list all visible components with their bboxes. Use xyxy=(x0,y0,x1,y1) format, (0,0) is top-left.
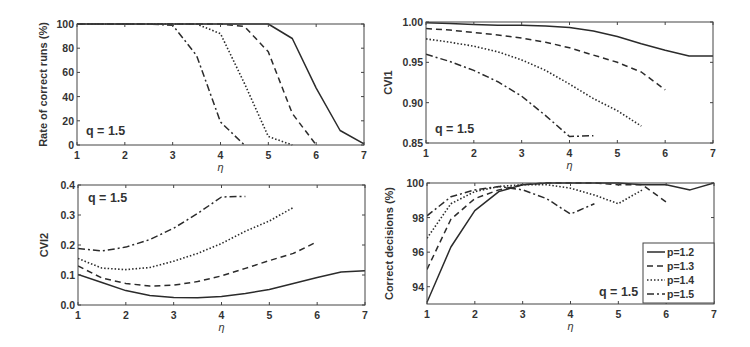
x-tick-label: 4 xyxy=(567,147,573,159)
series-line-p-1_5 xyxy=(427,187,594,216)
x-tick-label: 3 xyxy=(170,149,176,161)
series-line-p-1_3 xyxy=(427,183,666,269)
y-tick-label: 96 xyxy=(412,246,424,258)
legend: p=1.2p=1.3p=1.4p=1.5 xyxy=(643,243,714,303)
x-tick-label: 1 xyxy=(74,149,80,161)
x-tick-label: 4 xyxy=(218,149,224,161)
x-tick-label: 2 xyxy=(471,147,477,159)
q-annotation: q = 1.5 xyxy=(88,191,127,205)
series-group xyxy=(426,23,713,137)
y-tick-label: 0.0 xyxy=(60,299,75,311)
figure: 1234567020406080100ηRate of correct runs… xyxy=(0,0,750,347)
y-tick-label: 0 xyxy=(68,139,74,151)
legend-label: p=1.5 xyxy=(667,288,694,300)
y-tick-label: 0.1 xyxy=(60,269,75,281)
x-tick-label: 6 xyxy=(663,308,669,320)
y-axis-label: CVI1 xyxy=(382,70,394,94)
panel-decisions: 1234567949698100ηCorrect decisions (%)q … xyxy=(383,177,717,332)
x-tick-label: 5 xyxy=(265,149,271,161)
x-tick-label: 1 xyxy=(424,308,430,320)
y-tick-label: 0.85 xyxy=(403,137,424,149)
panel-cvi1: 12345670.850.900.951.00ηCVI1q = 1.5 xyxy=(382,16,716,171)
y-axis-label: CVI2 xyxy=(38,233,50,257)
q-annotation: q = 1.5 xyxy=(86,124,125,138)
legend-label: p=1.3 xyxy=(667,260,694,272)
x-axis-label: η xyxy=(218,321,224,333)
series-line-p-1_4 xyxy=(78,208,293,270)
y-tick-label: 1.00 xyxy=(403,16,424,28)
x-tick-label: 1 xyxy=(423,147,429,159)
y-tick-label: 100 xyxy=(406,177,424,189)
series-line-p-1_4 xyxy=(426,39,641,126)
panel-cvi2: 12345670.00.10.20.30.4ηCVI2q = 1.5 xyxy=(38,179,368,333)
y-tick-label: 0.90 xyxy=(403,97,424,109)
x-tick-label: 5 xyxy=(615,308,621,320)
y-tick-label: 20 xyxy=(62,115,74,127)
x-tick-label: 7 xyxy=(361,149,367,161)
y-tick-label: 98 xyxy=(412,212,424,224)
x-tick-label: 4 xyxy=(568,308,574,320)
y-tick-label: 0.4 xyxy=(60,179,75,191)
x-tick-label: 1 xyxy=(75,309,81,321)
y-axis-label: Rate of correct runs (%) xyxy=(37,22,49,147)
y-tick-label: 80 xyxy=(62,42,74,54)
x-tick-label: 2 xyxy=(123,309,129,321)
y-axis-label: Correct decisions (%) xyxy=(383,187,395,300)
x-axis-label: η xyxy=(566,159,572,171)
q-annotation: q = 1.5 xyxy=(599,285,638,299)
x-tick-label: 2 xyxy=(472,308,478,320)
x-tick-label: 4 xyxy=(219,309,225,321)
x-tick-label: 5 xyxy=(614,147,620,159)
legend-label: p=1.2 xyxy=(667,246,694,258)
series-line-p-1_4 xyxy=(427,185,642,239)
series-line-p-1_2 xyxy=(426,23,713,56)
x-tick-label: 6 xyxy=(313,149,319,161)
panel-rate: 1234567020406080100ηRate of correct runs… xyxy=(37,18,367,173)
y-tick-label: 0.3 xyxy=(60,209,75,221)
x-tick-label: 3 xyxy=(171,309,177,321)
x-axis-label: η xyxy=(567,320,573,332)
x-tick-label: 7 xyxy=(710,147,716,159)
x-tick-label: 7 xyxy=(362,309,368,321)
y-tick-label: 100 xyxy=(56,18,74,30)
x-tick-label: 5 xyxy=(266,309,272,321)
legend-label: p=1.4 xyxy=(667,274,694,286)
q-annotation: q = 1.5 xyxy=(435,122,474,136)
x-tick-label: 6 xyxy=(662,147,668,159)
x-tick-label: 6 xyxy=(314,309,320,321)
x-tick-label: 7 xyxy=(711,308,717,320)
series-group xyxy=(78,196,365,297)
y-tick-label: 94 xyxy=(412,281,424,293)
y-tick-label: 40 xyxy=(62,91,74,103)
y-tick-label: 0.95 xyxy=(403,56,424,68)
x-tick-label: 2 xyxy=(122,149,128,161)
series-line-p-1_2 xyxy=(78,271,365,298)
x-tick-label: 3 xyxy=(519,147,525,159)
y-tick-label: 0.2 xyxy=(60,239,75,251)
y-tick-label: 60 xyxy=(62,66,74,78)
x-tick-label: 3 xyxy=(520,308,526,320)
series-line-p-1_3 xyxy=(426,29,665,90)
x-axis-label: η xyxy=(217,161,223,173)
